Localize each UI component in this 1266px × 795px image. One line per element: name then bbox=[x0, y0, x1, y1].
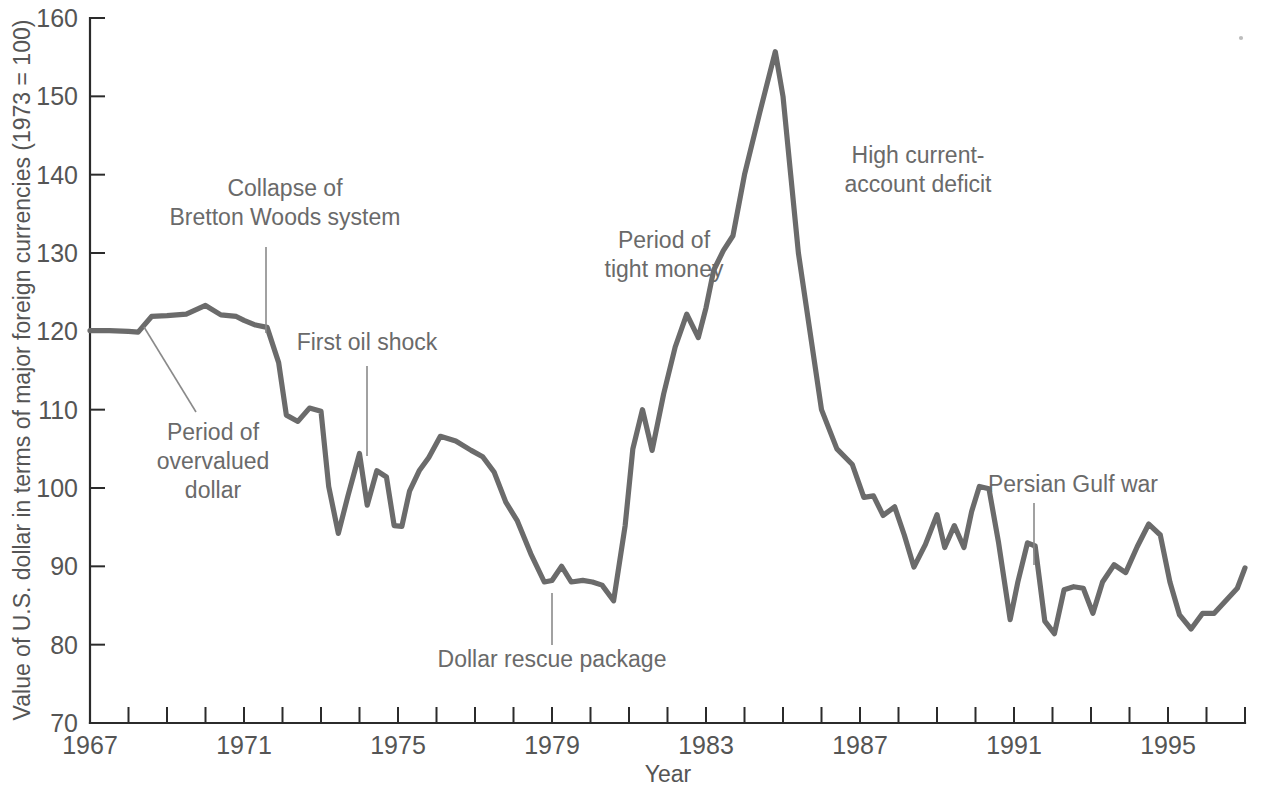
annotation-period-overvalued-dollar: Period ofovervalueddollar bbox=[157, 419, 270, 503]
annotation-line: overvalued bbox=[157, 448, 270, 474]
x-axis-ticks: 19671971197519791983198719911995 bbox=[62, 707, 1245, 759]
annotation-line: dollar bbox=[185, 477, 242, 503]
x-tick-label: 1975 bbox=[370, 731, 426, 759]
print-speck bbox=[1239, 36, 1243, 40]
annotation-high-current-account-deficit: High current-account deficit bbox=[844, 142, 992, 197]
annotation-line: account deficit bbox=[844, 171, 992, 197]
chart-canvas: 708090100110120130140150160 196719711975… bbox=[0, 0, 1266, 795]
annotation-period-tight-money: Period oftight money bbox=[605, 227, 724, 282]
annotation-line: Bretton Woods system bbox=[170, 204, 401, 230]
y-axis-ticks: 708090100110120130140150160 bbox=[36, 4, 105, 737]
x-tick-label: 1991 bbox=[986, 731, 1042, 759]
y-axis-title: Value of U.S. dollar in terms of major f… bbox=[9, 20, 35, 721]
annotation-line: Period of bbox=[167, 419, 260, 445]
y-tick-label: 160 bbox=[36, 4, 78, 32]
x-tick-label: 1971 bbox=[216, 731, 272, 759]
y-tick-label: 90 bbox=[50, 552, 78, 580]
y-tick-label: 150 bbox=[36, 82, 78, 110]
y-tick-label: 120 bbox=[36, 317, 78, 345]
annotation-line: Dollar rescue package bbox=[438, 646, 667, 672]
annotation-collapse-bretton-woods: Collapse ofBretton Woods system bbox=[170, 175, 401, 230]
annotation-line: Period of bbox=[618, 227, 711, 253]
annotation-dollar-rescue-package: Dollar rescue package bbox=[438, 646, 667, 672]
x-tick-label: 1995 bbox=[1140, 731, 1196, 759]
annotation-leader-line bbox=[144, 327, 196, 412]
chart-figure: 708090100110120130140150160 196719711975… bbox=[0, 0, 1266, 795]
x-tick-label: 1987 bbox=[832, 731, 888, 759]
y-tick-label: 140 bbox=[36, 161, 78, 189]
x-tick-label: 1967 bbox=[62, 731, 118, 759]
y-tick-label: 130 bbox=[36, 239, 78, 267]
y-tick-label: 100 bbox=[36, 474, 78, 502]
annotation-line: First oil shock bbox=[297, 329, 438, 355]
y-tick-label: 110 bbox=[38, 396, 78, 424]
annotation-line: tight money bbox=[605, 256, 724, 282]
annotation-line: High current- bbox=[852, 142, 985, 168]
annotation-line: Persian Gulf war bbox=[988, 471, 1158, 497]
x-tick-label: 1979 bbox=[524, 731, 580, 759]
series-group bbox=[90, 52, 1245, 634]
annotation-first-oil-shock: First oil shock bbox=[297, 329, 438, 355]
annotation-persian-gulf-war: Persian Gulf war bbox=[988, 471, 1158, 497]
x-axis-title: Year bbox=[645, 761, 692, 787]
annotation-line: Collapse of bbox=[227, 175, 343, 201]
y-tick-label: 80 bbox=[50, 631, 78, 659]
dollar-index-line bbox=[90, 52, 1245, 634]
x-tick-label: 1983 bbox=[678, 731, 734, 759]
